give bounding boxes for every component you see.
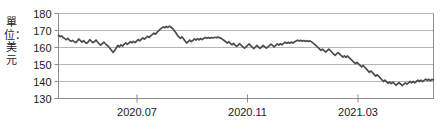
line-chart: 單位：美元 130140150160170180 2020.072020.112… — [0, 0, 442, 129]
y-tick-label: 130 — [33, 93, 51, 105]
y-tick-label: 150 — [33, 59, 51, 71]
gridlines — [59, 14, 434, 99]
x-tick-labels: 2020.072020.112021.03 — [117, 106, 378, 118]
y-tick-label: 160 — [33, 42, 51, 54]
x-tick-label: 2020.07 — [117, 106, 157, 118]
x-tick-label: 2020.11 — [228, 106, 267, 118]
y-tick-labels: 130140150160170180 — [33, 8, 58, 105]
data-series-line — [59, 26, 434, 86]
chart-canvas: 130140150160170180 2020.072020.112021.03 — [0, 0, 442, 129]
series-path — [59, 26, 434, 86]
y-tick-label: 170 — [33, 25, 51, 37]
axis-frame — [59, 14, 434, 99]
x-tick-label: 2021.03 — [338, 106, 378, 118]
y-tick-label: 140 — [33, 76, 51, 88]
y-tick-label: 180 — [33, 8, 51, 20]
